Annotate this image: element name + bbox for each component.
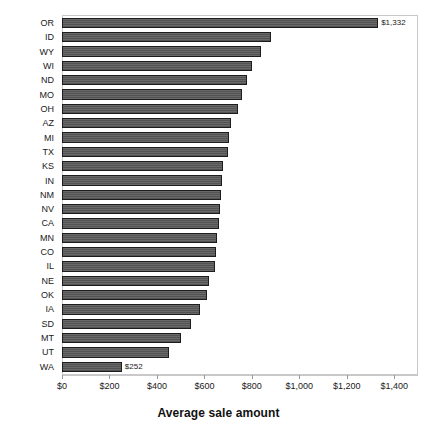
y-axis-label-wi: WI	[43, 59, 54, 73]
x-tick-label: $0	[57, 381, 67, 391]
bar-row	[62, 102, 418, 116]
x-tick-mark	[157, 375, 158, 379]
y-axis-label-ca: CA	[41, 216, 54, 230]
x-tick-label: $400	[147, 381, 167, 391]
y-axis-label-nm: NM	[40, 188, 54, 202]
bar-row	[62, 202, 418, 216]
y-axis-label-ut: UT	[42, 345, 54, 359]
bar-row	[62, 245, 418, 259]
x-tick-mark	[204, 375, 205, 379]
y-axis-label-nd: ND	[41, 73, 54, 87]
x-tick-mark	[394, 375, 395, 379]
bar-mi[interactable]	[62, 132, 229, 142]
y-axis-label-nv: NV	[41, 202, 54, 216]
bar-row	[62, 345, 418, 359]
bar-wi[interactable]	[62, 61, 252, 71]
bar-oh[interactable]	[62, 104, 238, 114]
bar-value-label-or: $1,332	[381, 16, 405, 30]
bar-az[interactable]	[62, 118, 231, 128]
bar-row	[62, 59, 418, 73]
bar-row	[62, 216, 418, 230]
bar-co[interactable]	[62, 247, 216, 257]
bar-row	[62, 317, 418, 331]
bar-mo[interactable]	[62, 89, 242, 99]
bar-row	[62, 274, 418, 288]
bar-wa[interactable]	[62, 362, 122, 372]
bar-row	[62, 331, 418, 345]
x-axis-line	[62, 375, 418, 376]
y-axis-category-labels: ORIDWYWINDMOOHAZMITXKSINNMNVCAMNCOILNEOK…	[0, 16, 58, 374]
y-axis-label-wa: WA	[40, 360, 54, 374]
y-axis-label-az: AZ	[42, 116, 54, 130]
bar-row	[62, 131, 418, 145]
y-axis-label-mn: MN	[40, 231, 54, 245]
y-axis-label-in: IN	[45, 174, 54, 188]
y-axis-label-mt: MT	[41, 331, 54, 345]
x-tick-label: $1,400	[381, 381, 409, 391]
y-axis-label-oh: OH	[41, 102, 55, 116]
bar-in[interactable]	[62, 175, 222, 185]
y-axis-label-ne: NE	[41, 274, 54, 288]
bar-ne[interactable]	[62, 276, 209, 286]
y-axis-label-or: OR	[41, 16, 55, 30]
bar-row	[62, 259, 418, 273]
bar-row	[62, 88, 418, 102]
y-axis-label-ks: KS	[42, 159, 54, 173]
x-tick-mark	[299, 375, 300, 379]
x-tick-label: $600	[194, 381, 214, 391]
x-tick-label: $1,200	[333, 381, 361, 391]
bar-row	[62, 45, 418, 59]
bar-row	[62, 145, 418, 159]
bar-row: $1,332	[62, 16, 418, 30]
y-axis-label-ia: IA	[45, 302, 54, 316]
bar-row	[62, 116, 418, 130]
bar-mt[interactable]	[62, 333, 181, 343]
bar-wy[interactable]	[62, 46, 261, 56]
bar-ks[interactable]	[62, 161, 223, 171]
bar-row	[62, 174, 418, 188]
bar-ok[interactable]	[62, 290, 207, 300]
bar-row	[62, 288, 418, 302]
x-tick-label: $200	[99, 381, 119, 391]
x-axis-title: Average sale amount	[0, 406, 437, 420]
x-tick-mark	[62, 375, 63, 379]
bar-ia[interactable]	[62, 304, 200, 314]
x-tick-mark	[109, 375, 110, 379]
y-axis-label-mi: MI	[44, 131, 54, 145]
bar-nd[interactable]	[62, 75, 247, 85]
y-axis-label-sd: SD	[41, 317, 54, 331]
bar-row	[62, 188, 418, 202]
y-axis-label-wy: WY	[40, 45, 55, 59]
y-axis-label-il: IL	[46, 259, 54, 273]
y-axis-label-id: ID	[45, 30, 54, 44]
x-tick-label: $1,000	[286, 381, 314, 391]
bar-nm[interactable]	[62, 190, 221, 200]
bar-id[interactable]	[62, 32, 271, 42]
y-axis-label-tx: TX	[42, 145, 54, 159]
bar-mn[interactable]	[62, 233, 217, 243]
bar-or[interactable]	[62, 18, 378, 28]
bar-row	[62, 30, 418, 44]
x-tick-mark	[252, 375, 253, 379]
bar-ut[interactable]	[62, 347, 169, 357]
bar-sd[interactable]	[62, 319, 191, 329]
bar-nv[interactable]	[62, 204, 220, 214]
bar-row	[62, 302, 418, 316]
x-tick-mark	[347, 375, 348, 379]
y-axis-label-mo: MO	[40, 88, 55, 102]
bar-series-container: $1,332$252	[62, 16, 418, 374]
bar-value-label-wa: $252	[125, 360, 143, 374]
y-axis-label-ok: OK	[41, 288, 54, 302]
bar-row	[62, 231, 418, 245]
x-tick-label: $800	[242, 381, 262, 391]
bar-il[interactable]	[62, 261, 215, 271]
bar-row	[62, 73, 418, 87]
bar-ca[interactable]	[62, 218, 219, 228]
bar-row	[62, 159, 418, 173]
bar-chart: ORIDWYWINDMOOHAZMITXKSINNMNVCAMNCOILNEOK…	[0, 0, 437, 439]
y-axis-label-co: CO	[41, 245, 55, 259]
bar-row: $252	[62, 360, 418, 374]
bar-tx[interactable]	[62, 147, 228, 157]
